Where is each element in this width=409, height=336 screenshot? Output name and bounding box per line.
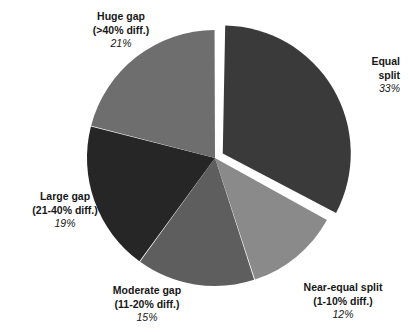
pie-label-large-gap-range: (21-40% diff.) <box>6 204 124 218</box>
pie-label-large-gap-percent: 19% <box>6 217 124 231</box>
pie-label-near-equal-split-name: Near-equal split <box>282 281 404 295</box>
pie-label-huge-gap-percent: 21% <box>62 37 180 51</box>
pie-label-moderate-gap-percent: 15% <box>82 311 212 325</box>
pie-label-equal-split-name: Equal <box>282 55 400 69</box>
pie-label-huge-gap-name: Huge gap <box>62 10 180 24</box>
pie-label-huge-gap: Huge gap (>40% diff.) 21% <box>62 10 180 51</box>
pie-label-moderate-gap-name: Moderate gap <box>82 284 212 298</box>
pie-chart-page: Huge gap (>40% diff.) 21% Equal split 33… <box>0 0 409 336</box>
pie-label-moderate-gap: Moderate gap (11-20% diff.) 15% <box>82 284 212 325</box>
pie-label-equal-split: Equal split 33% <box>282 55 400 96</box>
pie-label-equal-split-name2: split <box>282 69 400 83</box>
pie-label-huge-gap-range: (>40% diff.) <box>62 24 180 38</box>
pie-label-near-equal-split-percent: 12% <box>282 308 404 322</box>
pie-label-large-gap-name: Large gap <box>6 190 124 204</box>
pie-label-equal-split-percent: 33% <box>282 82 400 96</box>
pie-label-moderate-gap-range: (11-20% diff.) <box>82 298 212 312</box>
pie-label-large-gap: Large gap (21-40% diff.) 19% <box>6 190 124 231</box>
pie-label-near-equal-split: Near-equal split (1-10% diff.) 12% <box>282 281 404 322</box>
pie-label-near-equal-split-range: (1-10% diff.) <box>282 295 404 309</box>
